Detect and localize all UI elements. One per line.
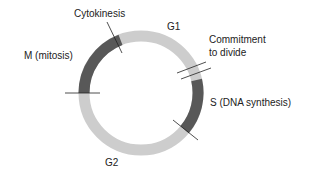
cell-cycle-diagram	[0, 0, 320, 180]
m-phase-arc	[84, 40, 121, 93]
cytokinesis-label: Cytokinesis	[74, 8, 125, 19]
commitment-label-line2: to divide	[209, 47, 246, 58]
g2-label: G2	[105, 157, 118, 168]
s-phase-label: S (DNA synthesis)	[210, 97, 291, 108]
commitment-label-line1: Commitment	[209, 34, 266, 45]
g1-label: G1	[167, 21, 180, 32]
s-phase-arc	[185, 80, 198, 130]
mitosis-label: M (mitosis)	[24, 50, 73, 61]
